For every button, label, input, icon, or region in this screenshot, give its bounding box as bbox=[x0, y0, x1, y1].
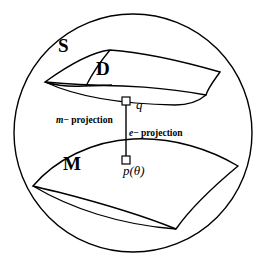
label-point-q: q bbox=[136, 98, 143, 111]
label-submanifold-d: D bbox=[96, 59, 110, 78]
label-manifold-m: M bbox=[63, 154, 81, 173]
label-e-projection: e− projection bbox=[129, 129, 183, 139]
label-m-projection: m− projection bbox=[56, 116, 113, 126]
label-ambient-space-s: S bbox=[58, 36, 69, 55]
m-projection-text: − projection bbox=[63, 115, 112, 125]
surface-d-patch bbox=[45, 50, 220, 95]
e-projection-text: − projection bbox=[133, 128, 182, 138]
label-point-p-theta: p(θ) bbox=[123, 164, 145, 177]
right-angle-marker-q bbox=[122, 97, 130, 105]
information-geometry-figure: S D M q p(θ) m− projection e− projection bbox=[0, 0, 263, 267]
